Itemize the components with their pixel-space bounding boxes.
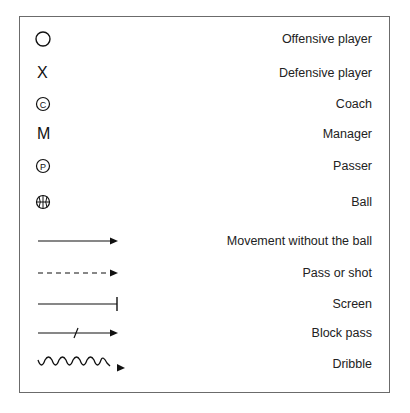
legend-label: Dribble xyxy=(332,355,372,373)
legend-label: Movement without the ball xyxy=(227,232,372,250)
legend-label: Block pass xyxy=(312,324,372,342)
legend-label: Passer xyxy=(333,157,372,175)
legend-row-offensive-player: Offensive player xyxy=(0,27,410,51)
legend-label: Offensive player xyxy=(282,30,372,48)
solid-arrow-icon xyxy=(34,229,134,253)
basketball-icon xyxy=(34,190,134,214)
legend-label: Pass or shot xyxy=(303,264,372,282)
legend-row-pass-or-shot: Pass or shot xyxy=(0,261,410,285)
legend-label: Ball xyxy=(351,193,372,211)
legend-row-dribble: Dribble xyxy=(0,352,410,376)
legend-label: Screen xyxy=(332,295,372,313)
m-letter-icon: M xyxy=(34,122,134,146)
block-pass-arrow-icon xyxy=(34,321,134,345)
legend-row-coach: C Coach xyxy=(0,92,410,116)
circled-p-icon: P xyxy=(34,154,134,178)
legend-row-movement: Movement without the ball xyxy=(0,229,410,253)
x-glyph: X xyxy=(37,62,48,84)
legend-label: Defensive player xyxy=(279,64,372,82)
legend-row-block-pass: Block pass xyxy=(0,321,410,345)
svg-text:C: C xyxy=(40,100,47,110)
svg-text:P: P xyxy=(40,162,46,172)
legend-row-defensive-player: X Defensive player xyxy=(0,61,410,85)
legend-row-passer: P Passer xyxy=(0,154,410,178)
circled-c-icon: C xyxy=(34,92,134,116)
x-icon: X xyxy=(34,61,134,85)
legend-row-manager: M Manager xyxy=(0,122,410,146)
circle-icon xyxy=(34,27,134,51)
legend-row-ball: Ball xyxy=(0,190,410,214)
wavy-arrow-icon xyxy=(34,352,134,376)
legend-label: Coach xyxy=(336,95,372,113)
screen-line-icon xyxy=(34,292,134,316)
legend-label: Manager xyxy=(323,125,372,143)
dashed-arrow-icon xyxy=(34,261,134,285)
m-glyph: M xyxy=(37,123,50,145)
legend-row-screen: Screen xyxy=(0,292,410,316)
